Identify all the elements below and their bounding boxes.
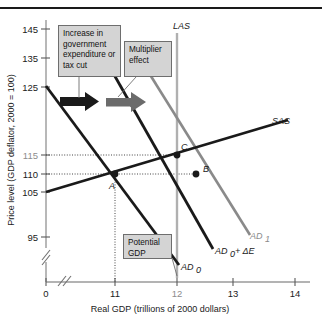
multiplier-effect-box: Multiplier effect	[124, 41, 172, 77]
point-b-marker	[193, 171, 200, 178]
las-label: LAS	[173, 21, 190, 31]
y-tick-135: 135	[22, 53, 38, 64]
point-a-marker	[112, 171, 119, 178]
y-axis-title: Price level (GDP deflator, 2000 = 100)	[6, 74, 16, 226]
figure-root: 145 135 125 115 110 105 95 0 11 12 13 14…	[0, 0, 322, 318]
point-c-label: C	[181, 142, 188, 152]
x-tick-14: 14	[290, 288, 301, 299]
ad0-de-label-suffix: + ΔE	[235, 246, 255, 256]
ad0-plus-de-curve	[104, 57, 213, 249]
increase-in-government-expenditure-box: Increase in government expenditure or ta…	[58, 25, 121, 77]
x-tick-13: 13	[228, 288, 239, 299]
point-c-marker	[174, 152, 181, 159]
y-tick-105: 105	[22, 187, 38, 198]
ad0-label-sub: 0	[196, 265, 201, 275]
sas-label: SAS	[272, 116, 290, 126]
multiplier-box-text: Multiplier effect	[129, 45, 162, 65]
y-tick-115: 115	[23, 150, 38, 161]
potential-gdp-box: Potential GDP	[123, 234, 172, 259]
ad0-label-text: AD	[180, 262, 194, 272]
x-tick-12: 12	[172, 288, 183, 299]
ad0-plus-de-label: AD 0 + ΔE	[214, 246, 255, 259]
point-b-label: B	[203, 164, 209, 174]
y-tick-110: 110	[23, 169, 38, 180]
x-axis-title: Real GDP (trillions of 2000 dollars)	[91, 304, 229, 314]
increase-box-text: Increase in government expenditure or ta…	[63, 29, 115, 70]
ad1-label-text: AD	[249, 231, 263, 241]
potential-box-text: Potential GDP	[128, 238, 160, 258]
y-tick-95: 95	[27, 232, 38, 243]
shift-arrow-1-icon	[60, 92, 99, 111]
ad0-label: AD 0	[180, 262, 201, 275]
point-a-label: A	[108, 181, 115, 191]
x-tick-0: 0	[43, 288, 48, 299]
sas-curve	[46, 120, 288, 192]
ad0-de-label-text: AD	[214, 246, 228, 256]
ad1-label-sub: 1	[265, 234, 270, 244]
x-tick-11: 11	[110, 288, 120, 299]
y-tick-125: 125	[22, 82, 38, 93]
ad1-label: AD 1	[249, 231, 270, 244]
y-tick-145: 145	[22, 24, 38, 35]
